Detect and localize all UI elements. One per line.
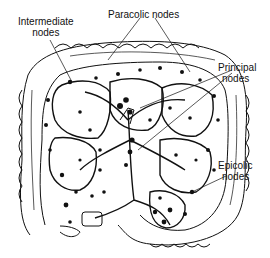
taenia-left [31,90,34,210]
label-principal-line2: nodes [218,73,256,84]
label-epicolic-line1: Epicolic [218,160,252,171]
label-principal-nodes: Principal nodes [218,62,256,84]
label-epicolic-line2: nodes [218,171,252,182]
arcade [49,138,96,191]
label-principal-line1: Principal [218,62,256,73]
taenia-right [230,95,237,205]
label-intermediate-line1: Intermediate [18,16,74,27]
leader-paracolic-1 [108,18,140,60]
label-intermediate-nodes: Intermediate nodes [18,16,74,38]
appendix [60,226,80,237]
taenia-top [70,52,215,60]
label-intermediate-line2: nodes [18,27,74,38]
label-paracolic-nodes: Paracolic nodes [108,9,179,20]
label-epicolic-nodes: Epicolic nodes [218,160,252,182]
arcade [162,84,213,137]
arcade [52,81,110,138]
arcade [160,139,211,193]
haustra-top [55,44,199,48]
leader-paracolic-2 [155,18,190,72]
colon-lymph-node-drawing [0,0,270,258]
label-paracolic-line1: Paracolic nodes [108,9,179,20]
ileum-stub [82,212,102,226]
